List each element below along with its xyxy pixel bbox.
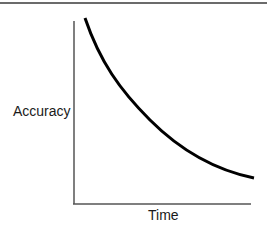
y-axis-label: Accuracy xyxy=(13,103,71,119)
x-axis-label: Time xyxy=(148,207,179,223)
accuracy-curve xyxy=(85,18,254,178)
